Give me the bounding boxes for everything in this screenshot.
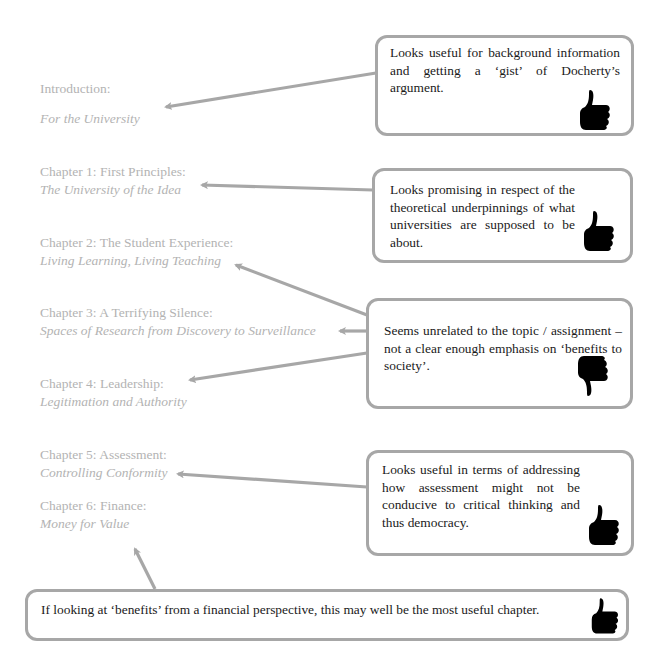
toc-heading: Introduction: [40, 80, 140, 98]
arrow-to-intro [166, 73, 376, 107]
toc-subtitle: Spaces of Research from Discovery to Sur… [40, 322, 316, 340]
note-chapter-5: Looks useful in terms of addressing how … [366, 450, 634, 556]
toc-subtitle: Legitimation and Authority [40, 393, 187, 411]
note-text: If looking at ‘benefits’ from a financia… [41, 601, 581, 619]
note-chapter-6: If looking at ‘benefits’ from a financia… [25, 589, 629, 641]
toc-introduction: Introduction: For the University [40, 80, 140, 128]
toc-chapter-3: Chapter 3: A Terrifying Silence: Spaces … [40, 304, 316, 340]
toc-chapter-1: Chapter 1: First Principles: The Univers… [40, 163, 186, 199]
thumbs-up-icon [587, 503, 621, 545]
toc-subtitle: Money for Value [40, 515, 146, 533]
toc-subtitle: Living Learning, Living Teaching [40, 252, 233, 270]
toc-heading: Chapter 6: Finance: [40, 497, 146, 515]
toc-heading: Chapter 5: Assessment: [40, 446, 167, 464]
toc-heading: Chapter 1: First Principles: [40, 163, 186, 181]
toc-chapter-5: Chapter 5: Assessment: Controlling Confo… [40, 446, 167, 482]
arrow-to-ch5 [178, 474, 367, 487]
arrow-to-ch6 [135, 549, 155, 589]
toc-subtitle: The University of the Idea [40, 181, 186, 199]
note-chapters-2-4: Seems unrelated to the topic / assignmen… [366, 298, 633, 409]
toc-subtitle: Controlling Conformity [40, 464, 167, 482]
arrow-to-ch1 [202, 185, 373, 190]
note-text: Looks promising in respect of the theore… [390, 181, 575, 251]
toc-heading: Chapter 3: A Terrifying Silence: [40, 304, 316, 322]
toc-chapter-6: Chapter 6: Finance: Money for Value [40, 497, 146, 533]
thumbs-down-icon [576, 356, 610, 398]
thumbs-up-icon [582, 209, 616, 251]
toc-chapter-2: Chapter 2: The Student Experience: Livin… [40, 234, 233, 270]
note-introduction: Looks useful for background information … [375, 35, 634, 136]
toc-heading: Chapter 4: Leadership: [40, 375, 187, 393]
thumbs-up-icon [578, 88, 612, 130]
note-text: Looks useful in terms of addressing how … [382, 461, 580, 531]
thumbs-up-icon [590, 595, 620, 635]
note-chapter-1: Looks promising in respect of the theore… [372, 168, 633, 263]
toc-chapter-4: Chapter 4: Leadership: Legitimation and … [40, 375, 187, 411]
arrow-to-ch4 [190, 353, 367, 380]
toc-subtitle: For the University [40, 110, 140, 128]
toc-heading: Chapter 2: The Student Experience: [40, 234, 233, 252]
